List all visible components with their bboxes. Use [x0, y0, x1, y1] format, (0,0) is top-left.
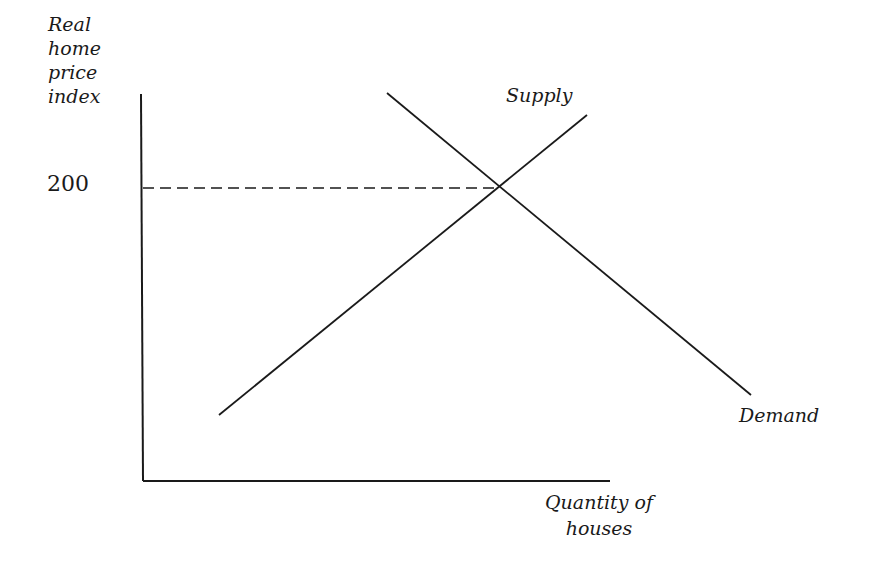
- demand-label: Demand: [739, 403, 819, 427]
- y-axis-label-line: index: [48, 84, 138, 108]
- supply-curve: [219, 115, 587, 415]
- demand-curve: [387, 93, 751, 395]
- x-axis-label-line: houses: [544, 516, 654, 542]
- y-axis-label-line: Real: [48, 12, 138, 36]
- y-axis: [141, 94, 143, 481]
- y-axis-label-line: home: [48, 36, 138, 60]
- y-axis-label: Real home price index: [48, 12, 138, 108]
- y-tick-200: 200: [47, 171, 89, 196]
- y-axis-label-line: price: [48, 60, 138, 84]
- x-axis-label-line: Quantity of: [544, 490, 654, 516]
- supply-label: Supply: [506, 83, 572, 107]
- x-axis-label: Quantity of houses: [544, 490, 654, 542]
